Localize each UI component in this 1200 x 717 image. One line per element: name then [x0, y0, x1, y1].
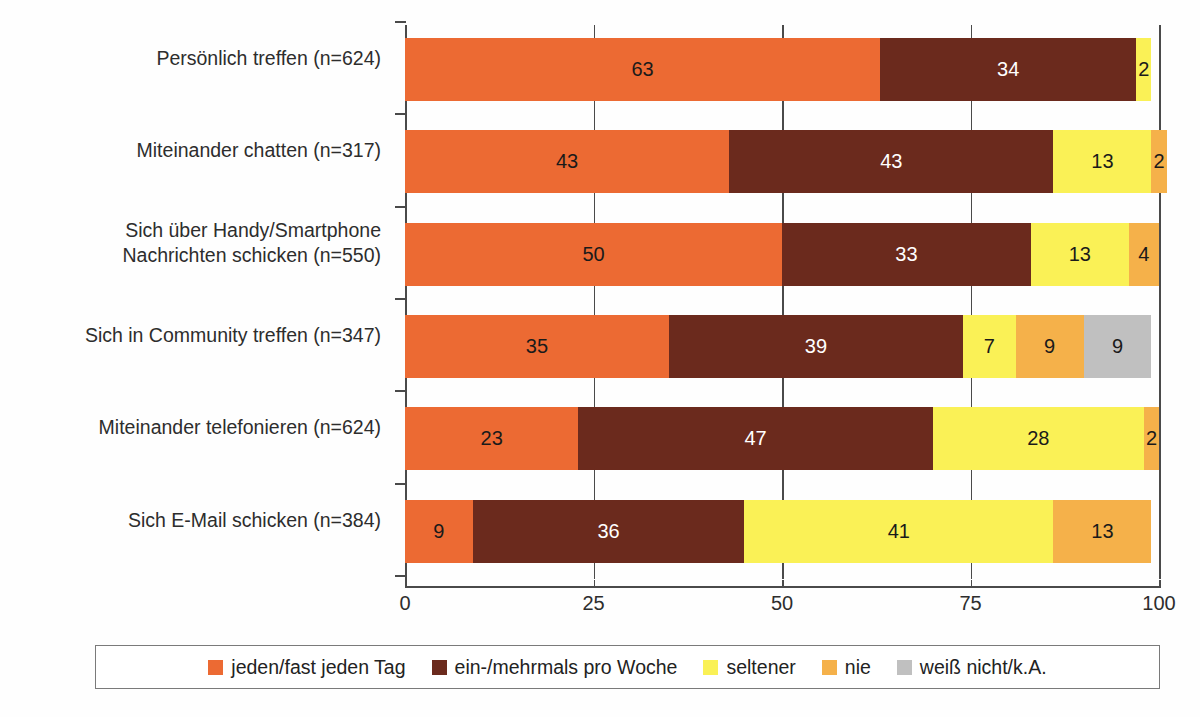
- legend-swatch-icon: [208, 660, 223, 675]
- bar-segment: 13: [1053, 500, 1151, 563]
- legend-item-1[interactable]: ein-/mehrmals pro Woche: [432, 656, 678, 679]
- category-label-3: Sich in Community treffen (n=347): [85, 323, 381, 348]
- bar-value-label: 50: [582, 243, 604, 266]
- bar-segment: 9: [405, 500, 473, 563]
- bar-segment: 34: [880, 38, 1136, 101]
- bar-value-label: 36: [597, 520, 619, 543]
- legend-item-4[interactable]: weiß nicht/k.A.: [897, 656, 1047, 679]
- x-tick-25: [594, 580, 596, 588]
- bar-value-label: 23: [481, 427, 503, 450]
- gridline-25: [594, 25, 596, 579]
- bar-row: 5033134: [405, 223, 1159, 286]
- x-tick-100: [1159, 580, 1161, 588]
- legend-swatch-icon: [897, 660, 912, 675]
- x-tick-label-75: 75: [959, 592, 981, 615]
- bar-value-label: 28: [1027, 427, 1049, 450]
- bar-segment: 41: [744, 500, 1053, 563]
- bar-segment: 43: [405, 130, 729, 193]
- y-tick-2: [395, 206, 406, 208]
- bar-segment: 2: [1151, 130, 1166, 193]
- bar-value-label: 63: [631, 58, 653, 81]
- category-label-4: Miteinander telefonieren (n=624): [99, 415, 381, 440]
- bar-segment: 2: [1144, 407, 1159, 470]
- stacked-bar-chart: Persönlich treffen (n=624)Miteinander ch…: [0, 14, 1200, 614]
- bar-value-label: 9: [1112, 335, 1123, 358]
- bar-value-label: 13: [1091, 150, 1113, 173]
- bar-segment: 35: [405, 315, 669, 378]
- bar-segment: 36: [473, 500, 744, 563]
- plot-area: 6334243431325033134353979923472829364113: [405, 25, 1159, 579]
- legend-swatch-icon: [703, 660, 718, 675]
- bar-row: 3539799: [405, 315, 1159, 378]
- x-tick-label-50: 50: [771, 592, 793, 615]
- bar-row: 9364113: [405, 500, 1159, 563]
- bar-row: 2347282: [405, 407, 1159, 470]
- bar-value-label: 43: [556, 150, 578, 173]
- bar-value-label: 2: [1146, 427, 1157, 450]
- cropped-title-strip: [0, 0, 1200, 14]
- bar-value-label: 9: [1044, 335, 1055, 358]
- bar-segment: 63: [405, 38, 880, 101]
- x-tick-label-100: 100: [1142, 592, 1175, 615]
- bar-segment: 2: [1136, 38, 1151, 101]
- bar-value-label: 4: [1138, 243, 1149, 266]
- category-label-0: Persönlich treffen (n=624): [156, 46, 381, 71]
- bar-value-label: 9: [433, 520, 444, 543]
- bar-value-label: 34: [997, 58, 1019, 81]
- bar-value-label: 39: [805, 335, 827, 358]
- bar-segment: 33: [782, 223, 1031, 286]
- y-tick-5: [395, 483, 406, 485]
- x-tick-label-25: 25: [582, 592, 604, 615]
- legend-item-2[interactable]: seltener: [703, 656, 795, 679]
- category-label-1: Miteinander chatten (n=317): [137, 138, 381, 163]
- y-tick-3: [395, 298, 406, 300]
- bar-value-label: 13: [1069, 243, 1091, 266]
- bar-value-label: 43: [880, 150, 902, 173]
- legend-label: nie: [845, 656, 871, 679]
- bar-segment: 13: [1053, 130, 1151, 193]
- bar-row: 4343132: [405, 130, 1159, 193]
- y-tick-1: [395, 113, 406, 115]
- legend-swatch-icon: [432, 660, 447, 675]
- category-axis-labels: Persönlich treffen (n=624)Miteinander ch…: [0, 14, 393, 579]
- bar-segment: 7: [963, 315, 1016, 378]
- legend-label: weiß nicht/k.A.: [920, 656, 1047, 679]
- legend-swatch-icon: [822, 660, 837, 675]
- gridline-75: [971, 25, 973, 579]
- legend-label: jeden/fast jeden Tag: [231, 656, 405, 679]
- legend-item-0[interactable]: jeden/fast jeden Tag: [208, 656, 405, 679]
- x-tick-0: [405, 580, 407, 588]
- legend-label: ein-/mehrmals pro Woche: [455, 656, 678, 679]
- y-tick-4: [395, 390, 406, 392]
- bar-value-label: 7: [984, 335, 995, 358]
- bar-value-label: 47: [744, 427, 766, 450]
- bar-value-label: 41: [888, 520, 910, 543]
- bar-segment: 28: [933, 407, 1144, 470]
- bar-row: 63342: [405, 38, 1159, 101]
- x-tick-75: [971, 580, 973, 588]
- legend-label: seltener: [726, 656, 795, 679]
- bar-value-label: 2: [1138, 58, 1149, 81]
- gridline-100: [1159, 25, 1161, 579]
- bar-segment: 9: [1084, 315, 1152, 378]
- bar-value-label: 33: [895, 243, 917, 266]
- chart-legend: jeden/fast jeden Tagein-/mehrmals pro Wo…: [95, 645, 1160, 689]
- y-tick-0: [395, 21, 406, 23]
- y-tick-end: [395, 575, 406, 577]
- legend-item-3[interactable]: nie: [822, 656, 871, 679]
- bar-segment: 9: [1016, 315, 1084, 378]
- chart-page: Persönlich treffen (n=624)Miteinander ch…: [0, 0, 1200, 717]
- gridline-50: [782, 25, 784, 579]
- x-tick-50: [782, 580, 784, 588]
- bar-value-label: 13: [1091, 520, 1113, 543]
- bar-segment: 43: [729, 130, 1053, 193]
- bar-segment: 50: [405, 223, 782, 286]
- bar-segment: 47: [578, 407, 932, 470]
- bar-segment: 39: [669, 315, 963, 378]
- category-label-5: Sich E-Mail schicken (n=384): [128, 508, 381, 533]
- x-tick-label-0: 0: [399, 592, 410, 615]
- category-label-2: Sich über Handy/Smartphone Nachrichten s…: [122, 218, 381, 268]
- bar-segment: 13: [1031, 223, 1129, 286]
- bar-segment: 23: [405, 407, 578, 470]
- bar-value-label: 35: [526, 335, 548, 358]
